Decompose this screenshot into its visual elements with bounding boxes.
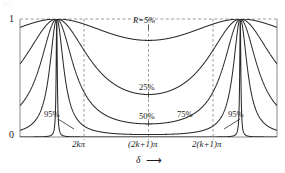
x-tick-label-2kpi: 2kπ [72, 140, 85, 149]
x-tick-label-2k-plus-1-times-pi: 2(k+1)π [192, 140, 222, 149]
curve-label-75: 75% [177, 110, 193, 119]
y-axis-label-top: 1 [9, 14, 14, 24]
y-axis-label-bottom: 0 [9, 130, 14, 140]
leader-line-95-left [58, 119, 74, 129]
x-axis-title: δ [136, 156, 140, 166]
curve-label-50: 50% [139, 112, 155, 121]
x-axis-arrow-icon: ⟶ [146, 155, 162, 166]
x-tick-label-2k-plus-1-pi: (2k+1)π [128, 140, 158, 149]
figure-container: (a) 1 0 2kπ (2k+1)π 2(k+1)π δ ⟶ R=5% 25%… [0, 0, 285, 173]
curve-label-r5: R=5% [133, 16, 155, 25]
curve-label-95-left: 95% [44, 110, 60, 119]
curve-label-25: 25% [139, 83, 155, 92]
curve-label-95-right: 95% [228, 110, 244, 119]
